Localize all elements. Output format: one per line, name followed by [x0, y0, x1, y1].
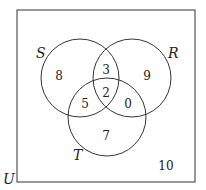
region-s-only: 8	[55, 69, 63, 83]
set-s-label: S	[36, 45, 46, 61]
region-s-r: 3	[102, 63, 110, 77]
region-t-only: 7	[102, 129, 110, 143]
venn-diagram: S R T U 8 9 3 2 5 0 7 10	[0, 0, 206, 190]
universe-label: U	[3, 171, 16, 187]
region-r-t: 0	[124, 97, 132, 111]
region-s-r-t: 2	[102, 86, 110, 100]
region-outside: 10	[158, 159, 173, 173]
set-r-label: R	[167, 45, 179, 61]
region-r-only: 9	[143, 69, 151, 83]
set-t-label: T	[73, 147, 84, 163]
region-s-t: 5	[81, 97, 89, 111]
